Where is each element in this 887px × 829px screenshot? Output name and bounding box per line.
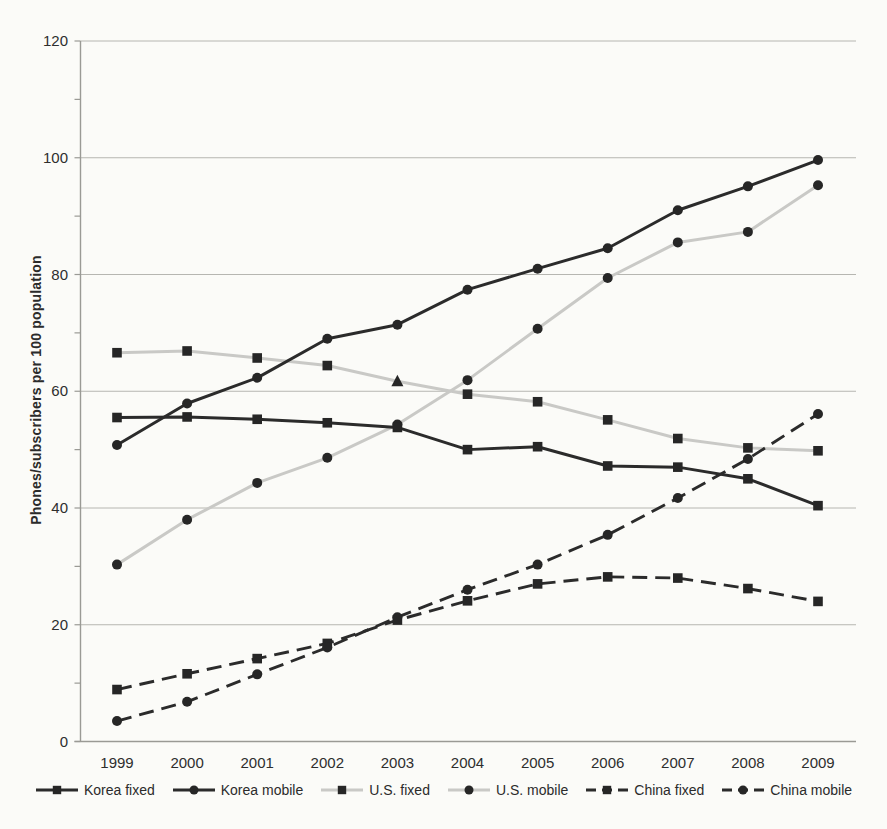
marker-china-mobile-1999	[112, 716, 122, 726]
series-line-korea-fixed	[117, 417, 818, 506]
legend-item-u-s-mobile: U.S. mobile	[447, 782, 568, 798]
y-tick-label-20: 20	[51, 616, 68, 633]
marker-china-fixed-2005	[533, 579, 543, 589]
marker-u-s-fixed-2005	[533, 397, 543, 407]
marker-china-fixed-2009	[813, 597, 823, 607]
marker-korea-mobile-2003	[392, 320, 402, 330]
legend-item-u-s-fixed: U.S. fixed	[320, 782, 430, 798]
marker-korea-fixed-2006	[603, 461, 613, 471]
marker-u-s-fixed-2002	[323, 361, 333, 371]
marker-u-s-mobile-2002	[322, 453, 332, 463]
marker-u-s-fixed-2001	[252, 353, 262, 363]
marker-korea-fixed-2000	[182, 412, 192, 422]
legend-item-china-fixed: China fixed	[585, 782, 704, 798]
marker-u-s-fixed-2009	[813, 446, 823, 456]
legend-item-korea-fixed: Korea fixed	[35, 782, 155, 798]
legend-item-korea-mobile: Korea mobile	[172, 782, 304, 798]
marker-china-mobile-2007	[673, 493, 683, 503]
x-tick-label-2000: 2000	[170, 754, 203, 771]
marker-korea-mobile-2009	[813, 155, 823, 165]
marker-korea-mobile-2000	[182, 399, 192, 409]
y-axis-title: Phones/subscribers per 100 population	[28, 255, 44, 525]
legend-swatch-china-fixed	[585, 783, 629, 797]
marker-china-fixed-2006	[603, 572, 613, 582]
legend-label-u-s-fixed: U.S. fixed	[369, 782, 430, 798]
legend-swatch-korea-fixed	[35, 783, 79, 797]
marker-korea-mobile-2001	[252, 373, 262, 383]
marker-china-mobile-2001	[252, 669, 262, 679]
chart-plot-area: 0204060801001201999200020012002200320042…	[0, 0, 887, 829]
x-tick-label-2001: 2001	[241, 754, 274, 771]
marker-korea-mobile-2006	[603, 243, 613, 253]
marker-korea-fixed-2001	[252, 414, 262, 424]
x-tick-label-2002: 2002	[311, 754, 344, 771]
x-tick-label-2007: 2007	[661, 754, 694, 771]
marker-china-mobile-2008	[743, 454, 753, 464]
marker-china-fixed-2000	[182, 669, 192, 679]
marker-u-s-mobile-1999	[112, 560, 122, 570]
legend-swatch-korea-mobile	[172, 783, 216, 797]
x-tick-label-2004: 2004	[451, 754, 484, 771]
marker-korea-mobile-2007	[673, 205, 683, 215]
y-tick-label-60: 60	[51, 382, 68, 399]
marker-u-s-mobile-2000	[182, 515, 192, 525]
marker-u-s-fixed-2007	[673, 434, 683, 444]
marker-u-s-fixed-2004	[463, 389, 473, 399]
legend-swatch-u-s-fixed	[320, 783, 364, 797]
marker-korea-fixed-2003	[393, 423, 403, 433]
x-tick-label-2005: 2005	[521, 754, 554, 771]
marker-u-s-mobile-2007	[673, 237, 683, 247]
x-tick-label-2008: 2008	[731, 754, 764, 771]
x-tick-label-2009: 2009	[801, 754, 834, 771]
legend-label-korea-mobile: Korea mobile	[221, 782, 304, 798]
marker-korea-fixed-1999	[112, 413, 122, 423]
marker-u-s-fixed-2006	[603, 415, 613, 425]
y-tick-label-100: 100	[43, 149, 68, 166]
marker-china-mobile-2003	[392, 612, 402, 622]
legend-item-china-mobile: China mobile	[721, 782, 852, 798]
marker-korea-mobile-2008	[743, 181, 753, 191]
y-tick-label-40: 40	[51, 499, 68, 516]
legend-label-korea-fixed: Korea fixed	[84, 782, 155, 798]
marker-china-fixed-2007	[673, 573, 683, 583]
marker-u-s-mobile-2004	[463, 375, 473, 385]
marker-china-fixed-2008	[743, 584, 753, 594]
legend-swatch-china-mobile	[721, 783, 765, 797]
line-chart-figure: 0204060801001201999200020012002200320042…	[0, 0, 887, 829]
marker-u-s-mobile-2009	[813, 180, 823, 190]
marker-china-mobile-2004	[463, 585, 473, 595]
marker-china-mobile-2005	[533, 560, 543, 570]
marker-korea-fixed-2009	[813, 501, 823, 511]
marker-u-s-fixed-2008	[743, 443, 753, 453]
marker-china-mobile-2000	[182, 697, 192, 707]
chart-legend: Korea fixedKorea mobileU.S. fixedU.S. mo…	[0, 776, 887, 804]
marker-china-mobile-2002	[322, 643, 332, 653]
y-tick-label-0: 0	[60, 733, 68, 750]
legend-swatch-u-s-mobile	[447, 783, 491, 797]
marker-korea-mobile-2005	[533, 264, 543, 274]
marker-korea-fixed-2005	[533, 442, 543, 452]
marker-china-fixed-2001	[252, 654, 262, 664]
series-line-u-s-fixed	[117, 351, 818, 451]
marker-china-mobile-2006	[603, 530, 613, 540]
x-tick-label-2003: 2003	[381, 754, 414, 771]
marker-u-s-fixed-2000	[182, 346, 192, 356]
marker-korea-fixed-2004	[463, 445, 473, 455]
marker-u-s-fixed-1999	[112, 348, 122, 358]
marker-u-s-mobile-2008	[743, 227, 753, 237]
marker-korea-mobile-1999	[112, 440, 122, 450]
legend-label-u-s-mobile: U.S. mobile	[496, 782, 568, 798]
y-tick-label-80: 80	[51, 266, 68, 283]
marker-china-mobile-2009	[813, 409, 823, 419]
marker-korea-mobile-2004	[463, 285, 473, 295]
y-tick-label-120: 120	[43, 32, 68, 49]
marker-u-s-mobile-2001	[252, 478, 262, 488]
marker-u-s-mobile-2005	[533, 324, 543, 334]
marker-korea-fixed-2002	[323, 418, 333, 428]
marker-u-s-mobile-2006	[603, 273, 613, 283]
series-line-korea-mobile	[117, 160, 818, 445]
legend-label-china-fixed: China fixed	[634, 782, 704, 798]
marker-korea-fixed-2007	[673, 462, 683, 472]
marker-korea-fixed-2008	[743, 474, 753, 484]
x-tick-label-2006: 2006	[591, 754, 624, 771]
